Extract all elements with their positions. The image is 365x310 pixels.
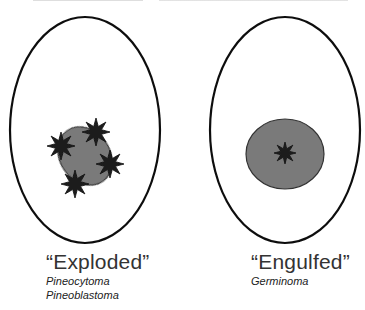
exploded-label-block: “Exploded” Pineocytoma Pineoblastoma [46,250,150,302]
exploded-subtitle-1: Pineocytoma [46,274,150,288]
exploded-star-icon-0 [47,132,75,160]
engulfed-star-icon-0 [274,142,296,164]
engulfed-cell-diagram [210,17,360,243]
exploded-star-icon-2 [96,150,124,178]
exploded-title: “Exploded” [46,250,150,274]
exploded-cell-diagram [10,17,160,243]
exploded-star-icon-3 [61,170,89,198]
engulfed-title: “Engulfed” [251,250,350,274]
engulfed-label-block: “Engulfed” Germinoma [251,250,350,288]
exploded-star-icon-1 [82,118,110,146]
engulfed-subtitle-1: Germinoma [251,274,350,288]
exploded-subtitle-2: Pineoblastoma [46,288,150,302]
